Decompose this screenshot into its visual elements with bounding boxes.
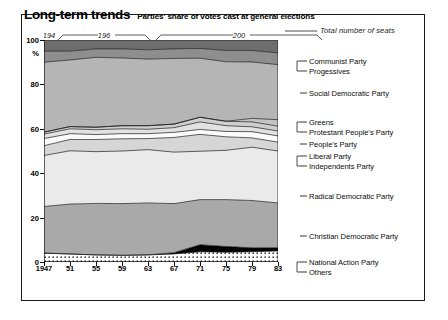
svg-text:196: 196 xyxy=(98,31,111,40)
legend-label-progessives: Progessives xyxy=(309,67,350,76)
decade-bracket-band: 194196200 xyxy=(44,27,322,40)
y-axis-tick-mark xyxy=(40,173,44,174)
y-axis-tick-20: 20 xyxy=(17,213,39,222)
area-band-radical-democratic-party xyxy=(44,147,278,206)
x-axis-tick-mark xyxy=(122,262,123,266)
svg-text:200: 200 xyxy=(232,31,246,40)
x-axis-tick-mark xyxy=(174,262,175,266)
x-axis-tick-mark xyxy=(44,262,45,266)
legend-label-others: Others xyxy=(309,268,332,277)
y-axis-tick-40: 40 xyxy=(17,169,39,178)
decade-bracket-196: 196 xyxy=(58,31,150,40)
legend-label-people-s-party: People's Party xyxy=(309,140,357,149)
legend-label-christian-democratic-party: Christian Democratic Party xyxy=(309,232,398,241)
x-axis-tick-mark xyxy=(278,262,279,266)
legend-label-radical-democratic-party: Radical Democratic Party xyxy=(309,192,393,201)
y-axis-tick-mark xyxy=(40,129,44,130)
page-title: Long-term trends xyxy=(24,7,130,22)
legend-label-national-action-party: National Action Party xyxy=(309,258,378,267)
total-seats-note: Total number of seats xyxy=(320,26,395,35)
title-block: Long-term trends Parties' share of votes… xyxy=(24,7,315,22)
stacked-area-chart xyxy=(44,40,278,262)
svg-text:194: 194 xyxy=(44,31,55,40)
x-axis-tick-mark xyxy=(96,262,97,266)
legend-label-communist-party: Communist Party xyxy=(309,57,366,66)
x-axis-tick-mark xyxy=(148,262,149,266)
y-axis-tick-100: 100 xyxy=(17,36,39,45)
y-axis-tick-80: 80 xyxy=(17,80,39,89)
plot-area xyxy=(44,40,278,262)
decade-bracket-200: 200 xyxy=(156,31,322,40)
x-axis-tick-mark xyxy=(252,262,253,266)
legend-label-liberal-party: Liberal Party xyxy=(309,152,351,161)
x-axis-tick-mark xyxy=(70,262,71,266)
y-axis-tick-mark xyxy=(40,84,44,85)
y-axis-tick-mark xyxy=(40,218,44,219)
legend-label-social-democratic-party: Social Democratic Party xyxy=(309,89,389,98)
legend-label-independents-party: Independents Party xyxy=(309,162,374,171)
chart-subtitle: Parties' share of votes cast at general … xyxy=(137,12,314,21)
decade-bracket-194: 194 xyxy=(44,31,55,40)
y-axis-tick-60: 60 xyxy=(17,124,39,133)
x-axis-tick-mark xyxy=(226,262,227,266)
y-axis-tick-mark xyxy=(40,40,44,41)
y-axis-unit-label: % xyxy=(17,49,39,58)
x-axis-tick-mark xyxy=(200,262,201,266)
legend-label-protestant-people-s-party: Protestant People's Party xyxy=(309,128,393,137)
legend-label-greens: Greens xyxy=(309,118,334,127)
